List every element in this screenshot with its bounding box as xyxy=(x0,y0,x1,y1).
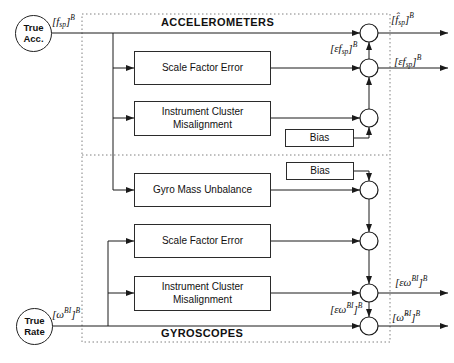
sig-part: εω xyxy=(399,276,411,288)
sig-part: B xyxy=(75,306,80,315)
block-acc-scale-factor-error: Scale Factor Error xyxy=(134,51,271,85)
summing-junction-1 xyxy=(360,24,378,42)
sig-part: sp xyxy=(398,18,405,27)
block-label: Instrument Cluster xyxy=(162,106,244,119)
true-acc-label-line1: True xyxy=(23,23,43,34)
block-label: Bias xyxy=(310,132,329,145)
signal-ef-output: [εfsp]B xyxy=(394,53,421,69)
summing-junction-5 xyxy=(360,232,378,250)
sig-part: εf xyxy=(398,55,405,67)
sig-part: B xyxy=(358,301,363,310)
sig-part: sp xyxy=(59,20,66,29)
line-acc-feed-vertical xyxy=(113,33,134,190)
signal-ef-feedback: [εfsp]B xyxy=(330,40,357,56)
summing-junction-6 xyxy=(360,284,378,302)
signal-omega-hat-output: [ω̂BI]B xyxy=(392,309,420,325)
sig-part: εω xyxy=(334,303,346,315)
signal-eomega-output: [εωBI]B xyxy=(395,274,427,290)
block-label: Bias xyxy=(310,165,329,178)
section-title-accelerometers: ACCELEROMETERS xyxy=(161,16,274,28)
block-acc-instrument-cluster-misalignment: Instrument Cluster Misalignment xyxy=(134,101,271,136)
sig-part: ω xyxy=(56,308,64,320)
block-label: Gyro Mass Unbalance xyxy=(153,184,252,197)
summing-junction-2 xyxy=(360,59,378,77)
true-rate-label-line1: True xyxy=(24,316,44,327)
block-label: Misalignment xyxy=(173,119,232,132)
block-gyro-bias: Bias xyxy=(286,162,354,180)
signal-eomega-feedback: [εωBI]B xyxy=(330,301,362,317)
block-label: Scale Factor Error xyxy=(162,235,243,248)
sig-part: B xyxy=(353,40,358,49)
imu-error-block-diagram: ACCELEROMETERS GYROSCOPES True Acc. True… xyxy=(0,0,454,363)
signal-f-hat-output: [f̂sp]B xyxy=(391,11,414,27)
sig-part: ω̂ xyxy=(396,311,404,323)
summing-junction-3 xyxy=(360,109,378,127)
block-gyro-instrument-cluster-misalignment: Instrument Cluster Misalignment xyxy=(134,276,271,311)
block-acc-bias: Bias xyxy=(285,129,354,147)
signal-f-true: [fsp]B xyxy=(52,13,75,29)
block-label: Scale Factor Error xyxy=(162,62,243,75)
true-rate-label-line2: Rate xyxy=(24,327,45,338)
sig-part: B xyxy=(409,11,414,20)
summing-junction-7 xyxy=(360,317,378,335)
block-label: Instrument Cluster xyxy=(162,281,244,294)
sig-part: B xyxy=(415,309,420,318)
block-gyro-mass-unbalance: Gyro Mass Unbalance xyxy=(134,173,271,207)
sig-part: εf xyxy=(334,42,341,54)
sig-part: B xyxy=(423,274,428,283)
line-rate-feed-vertical xyxy=(108,241,134,326)
line-acc-bias-out xyxy=(353,127,369,138)
section-title-gyroscopes: GYROSCOPES xyxy=(161,327,243,339)
true-acc-label-line2: Acc. xyxy=(23,34,43,45)
summing-junction-4 xyxy=(360,181,378,199)
sig-part: B xyxy=(417,53,422,62)
signal-omega-true: [ωBI]B xyxy=(52,306,80,322)
true-rate-terminal: True Rate xyxy=(16,308,53,345)
line-gyro-bias-out xyxy=(353,171,369,181)
block-label: Misalignment xyxy=(173,294,232,307)
true-acc-terminal: True Acc. xyxy=(15,15,52,52)
block-gyro-scale-factor-error: Scale Factor Error xyxy=(134,224,271,258)
sig-part: B xyxy=(70,13,75,22)
